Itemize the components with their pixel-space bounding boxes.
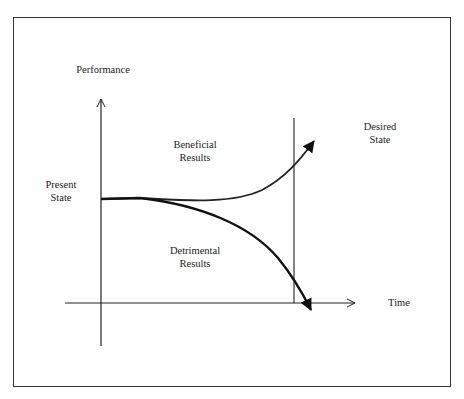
detrimental-results-label: Detrimental Results — [162, 244, 228, 270]
desired-state-line2: State — [355, 133, 405, 146]
beneficial-results-label: Beneficial Results — [165, 138, 225, 164]
present-state-line1: Present — [36, 178, 86, 191]
present-state-label: Present State — [36, 178, 86, 204]
detrimental-line2: Results — [162, 257, 228, 270]
x-axis-label: Time — [384, 296, 414, 309]
beneficial-line1: Beneficial — [165, 138, 225, 151]
desired-state-line1: Desired — [355, 120, 405, 133]
beneficial-line2: Results — [165, 151, 225, 164]
y-axis-label: Performance — [73, 63, 133, 76]
present-state-line2: State — [36, 191, 86, 204]
desired-state-label: Desired State — [355, 120, 405, 146]
detrimental-line1: Detrimental — [162, 244, 228, 257]
